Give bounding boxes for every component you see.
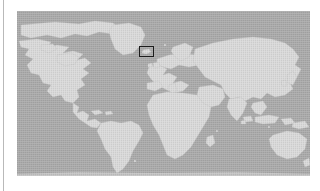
landmass-asia (193, 37, 309, 129)
landmass-north-america (19, 21, 121, 128)
map-ocean-background (17, 11, 310, 176)
landmass-australia (269, 131, 310, 167)
page-left-rule (3, 0, 4, 191)
landmass-antarctica-edge (17, 172, 310, 176)
world-map-figure (17, 11, 310, 176)
landmass-south-america (97, 121, 143, 173)
region-of-interest-box (139, 46, 154, 57)
world-map-landmasses (17, 11, 310, 176)
